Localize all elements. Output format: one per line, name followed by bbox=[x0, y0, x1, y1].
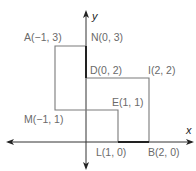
point-label-L: L(1, 0) bbox=[96, 146, 126, 158]
point-label-N: N(0, 3) bbox=[91, 31, 123, 43]
shape-right-inner-step bbox=[86, 110, 118, 142]
coordinate-plane: y x A(−1, 3) N(0, 3) D(0, 2) I(2, 2) E(1… bbox=[0, 0, 196, 171]
point-label-D: D(0, 2) bbox=[90, 64, 122, 76]
point-label-E: E(1, 1) bbox=[112, 96, 144, 108]
point-label-I: I(2, 2) bbox=[148, 64, 175, 76]
x-axis-label: x bbox=[185, 124, 192, 136]
point-label-M: M(−1, 1) bbox=[24, 113, 63, 125]
point-label-A: A(−1, 3) bbox=[24, 31, 62, 43]
point-label-B: B(2, 0) bbox=[148, 146, 180, 158]
shape-left-rectangle bbox=[55, 46, 86, 110]
y-axis-label: y bbox=[91, 10, 99, 22]
